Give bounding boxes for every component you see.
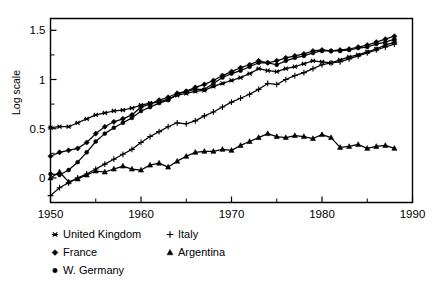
- data-point-marker: [57, 150, 62, 155]
- data-point-marker: [256, 67, 262, 71]
- data-point-marker: [57, 125, 63, 129]
- data-point-marker: [148, 105, 152, 109]
- legend-item-w-germany[interactable]: W. Germany: [53, 264, 125, 276]
- series-france: [48, 34, 397, 159]
- data-point-marker: [301, 62, 307, 66]
- data-point-marker: [67, 168, 71, 172]
- data-point-marker: [302, 54, 306, 58]
- data-point-marker: [347, 48, 351, 52]
- data-point-marker: [76, 160, 80, 164]
- data-point-marker: [130, 116, 134, 120]
- data-point-marker: [75, 121, 81, 125]
- data-point-marker: [257, 61, 261, 65]
- data-point-marker: [48, 154, 53, 159]
- data-point-marker: [211, 81, 215, 85]
- legend-item-italy[interactable]: Italy: [167, 228, 199, 240]
- data-point-marker: [356, 46, 360, 50]
- data-point-marker: [374, 42, 378, 46]
- series-united-kingdom: [48, 40, 397, 130]
- data-point-marker: [293, 56, 297, 60]
- data-point-marker: [167, 249, 173, 254]
- data-point-marker: [320, 49, 324, 53]
- data-point-marker: [247, 72, 253, 76]
- data-point-marker: [220, 104, 226, 110]
- data-point-marker: [139, 109, 143, 113]
- data-point-marker: [201, 113, 207, 119]
- data-point-marker: [112, 126, 116, 130]
- data-point-marker: [274, 82, 280, 88]
- data-point-marker: [111, 156, 117, 162]
- data-point-marker: [292, 65, 298, 69]
- y-tick-label: 0.5: [30, 123, 46, 135]
- legend-label: Argentina: [178, 246, 226, 258]
- y-tick-label: 1: [39, 74, 45, 86]
- data-point-marker: [120, 163, 125, 168]
- series-line: [51, 42, 395, 128]
- data-point-marker: [392, 37, 396, 41]
- data-point-marker: [356, 142, 361, 147]
- x-tick-label: 1950: [38, 208, 64, 220]
- legend-layer: United KingdomItalyFranceArgentinaW. Ger…: [52, 228, 226, 276]
- series-line: [51, 134, 395, 182]
- data-point-marker: [247, 91, 253, 97]
- data-point-marker: [239, 69, 243, 73]
- data-point-marker: [292, 73, 298, 79]
- data-point-marker: [365, 45, 369, 49]
- data-point-marker: [238, 95, 244, 101]
- data-point-marker: [230, 72, 234, 76]
- data-point-marker: [329, 49, 333, 53]
- data-point-marker: [265, 69, 271, 73]
- legend-label: W. Germany: [63, 264, 125, 276]
- data-point-marker: [120, 151, 126, 157]
- data-point-marker: [156, 129, 162, 135]
- data-point-marker: [120, 108, 126, 112]
- y-tick-label: 0: [39, 172, 45, 184]
- data-point-marker: [165, 124, 171, 130]
- data-point-marker: [238, 76, 244, 80]
- y-tick-label: 1.5: [30, 24, 46, 36]
- x-tick-label: 1970: [219, 208, 245, 220]
- data-point-marker: [93, 113, 99, 117]
- data-point-marker: [66, 125, 72, 129]
- data-point-marker: [174, 120, 180, 126]
- data-point-marker: [266, 61, 270, 65]
- data-point-marker: [183, 121, 189, 127]
- data-point-marker: [66, 148, 71, 153]
- data-point-marker: [221, 76, 225, 80]
- data-point-marker: [111, 109, 117, 113]
- data-point-marker: [265, 131, 270, 136]
- legend-item-united-kingdom[interactable]: United Kingdom: [52, 228, 141, 240]
- legend-item-france[interactable]: France: [52, 246, 97, 258]
- chart-figure: 00.511.519501960197019801990Log scale Un…: [0, 0, 438, 287]
- data-point-marker: [229, 78, 235, 82]
- data-point-marker: [102, 111, 108, 115]
- legend-label: United Kingdom: [63, 228, 141, 240]
- data-point-marker: [202, 82, 207, 87]
- legend-item-argentina[interactable]: Argentina: [167, 246, 226, 258]
- data-point-marker: [175, 92, 179, 96]
- data-point-marker: [121, 121, 125, 125]
- data-point-marker: [85, 150, 89, 154]
- line-chart: 00.511.519501960197019801990Log scale Un…: [0, 0, 438, 287]
- x-tick-label: 1960: [128, 208, 154, 220]
- data-point-marker: [157, 160, 162, 165]
- data-point-marker: [311, 51, 315, 55]
- data-point-marker: [275, 63, 279, 67]
- data-point-marker: [52, 250, 58, 256]
- data-point-marker: [84, 117, 90, 121]
- legend-label: France: [63, 246, 97, 258]
- series-line: [51, 36, 395, 156]
- data-point-marker: [53, 268, 57, 272]
- data-point-marker: [211, 109, 217, 115]
- data-point-marker: [102, 161, 108, 167]
- data-point-marker: [94, 140, 98, 144]
- x-tick-label: 1980: [309, 208, 335, 220]
- data-point-marker: [192, 118, 198, 124]
- data-point-marker: [319, 62, 325, 68]
- axis-layer: 00.511.519501960197019801990Log scale: [10, 19, 425, 220]
- data-point-marker: [220, 81, 226, 85]
- data-point-marker: [319, 132, 324, 137]
- data-point-marker: [248, 65, 252, 69]
- series-argentina: [48, 131, 397, 184]
- x-tick-label: 1990: [400, 208, 426, 220]
